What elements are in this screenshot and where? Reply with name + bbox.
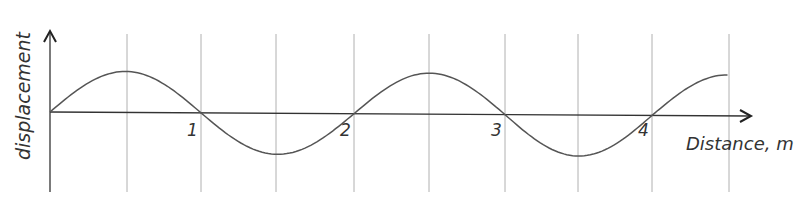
- x-axis-label: Distance, m: [686, 133, 794, 154]
- x-tick-labels: 1234: [187, 120, 649, 140]
- wave-diagram: 1234 displacement Distance, m: [0, 0, 809, 199]
- x-tick-label: 2: [340, 120, 351, 140]
- x-tick-label: 4: [638, 120, 649, 140]
- y-axis-label: displacement: [12, 30, 34, 160]
- x-tick-label: 3: [491, 120, 502, 140]
- x-axis: [50, 112, 750, 116]
- axes: [44, 31, 751, 192]
- x-tick-label: 1: [187, 120, 198, 140]
